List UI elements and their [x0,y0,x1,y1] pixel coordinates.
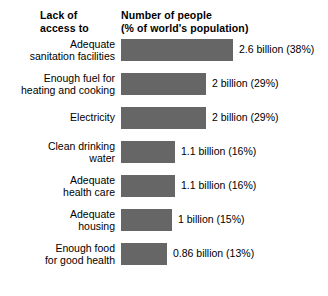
bar-and-value: 1.1 billion (16%) [121,175,256,197]
bar-value-label: 1.1 billion (16%) [181,180,256,192]
bar-category-label: Adequate housing [7,209,115,232]
bar-value-label: 2 billion (29%) [212,78,279,90]
bar [121,107,206,129]
chart-header: Lack of access to Number of people (% of… [0,9,328,39]
bar-row: Electricity2 billion (29%) [0,107,328,141]
bar-chart: Lack of access to Number of people (% of… [0,0,328,296]
bar-category-label: Adequate health care [7,175,115,198]
bar-rows: Adequate sanitation facilities2.6 billio… [0,39,328,277]
bar-category-label: Electricity [7,112,115,124]
bar-row: Adequate housing1 billion (15%) [0,209,328,243]
bar-row: Enough fuel for heating and cooking2 bil… [0,73,328,107]
bar-row: Adequate sanitation facilities2.6 billio… [0,39,328,73]
bar-value-label: 1.1 billion (16%) [181,146,256,158]
bar-category-label: Enough food for good health [7,243,115,266]
bar-row: Adequate health care1.1 billion (16%) [0,175,328,209]
bar-category-label: Adequate sanitation facilities [7,39,115,62]
bar-and-value: 1 billion (15%) [121,209,245,231]
bar-row: Enough food for good health0.86 billion … [0,243,328,277]
bar-value-label: 0.86 billion (13%) [173,248,254,260]
value-axis-title: Number of people (% of world's populatio… [121,9,248,34]
bar-category-label: Clean drinking water [7,141,115,164]
bar-row: Clean drinking water1.1 billion (16%) [0,141,328,175]
bar [121,39,233,61]
bar [121,175,175,197]
bar-category-label: Enough fuel for heating and cooking [7,73,115,96]
bar [121,243,167,265]
category-axis-title: Lack of access to [40,9,89,34]
bar-value-label: 1 billion (15%) [178,214,245,226]
bar-and-value: 0.86 billion (13%) [121,243,254,265]
bar-value-label: 2.6 billion (38%) [239,44,314,56]
bar-and-value: 2 billion (29%) [121,107,279,129]
bar [121,209,172,231]
bar [121,73,206,95]
bar-and-value: 1.1 billion (16%) [121,141,256,163]
bar-value-label: 2 billion (29%) [212,112,279,124]
bar-and-value: 2 billion (29%) [121,73,279,95]
bar-and-value: 2.6 billion (38%) [121,39,314,61]
bar [121,141,175,163]
